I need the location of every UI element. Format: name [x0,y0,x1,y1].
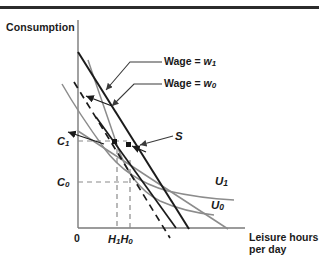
leader-line-wage-w0 [112,84,162,106]
substitution-arrow-lower [68,132,104,144]
x-axis-title: Leisure hours per day [249,232,318,256]
y-tick-c0-sub: 0 [65,180,69,189]
curve-u0-sub: 0 [219,202,224,212]
budget-line-wage-w0 [78,131,228,229]
x-tick-h0-sub: 0 [128,237,132,246]
figure-canvas: Consumption Leisure hours per day C1 C0 … [0,0,319,274]
x-axis-title-line1: Leisure hours [249,231,318,243]
annotation-wage-w0: Wage = w0 [164,78,216,91]
y-axis-title: Consumption [6,22,75,34]
y-tick-c1-sub: 1 [65,139,69,148]
annotation-point-s: S [175,130,183,143]
wage-w1-var: w [204,55,212,67]
y-tick-label-c0: C0 [57,176,69,190]
wage-w1-sub: 1 [212,59,216,68]
wage-w0-var: w [204,77,212,89]
y-tick-label-c1: C1 [57,135,69,149]
x-tick-labels: H1H0 [108,233,133,247]
marker-optimum-high-wage [126,142,131,147]
marker-optimum-low-wage [112,139,117,144]
curve-label-u1: U1 [215,175,228,189]
annotation-wage-w1: Wage = w1 [164,56,216,69]
curve-label-u0: U0 [211,199,224,213]
budget-line-secondary [96,117,176,228]
origin-label: 0 [74,233,80,245]
curve-u1-sub: 1 [223,178,228,188]
wage-w0-sub: 0 [212,81,216,90]
indifference-curve-u1 [62,84,234,200]
leader-line-wage-w1 [106,62,162,90]
wage-w1-prefix: Wage = [164,55,204,67]
y-tick-c1-base: C [57,135,65,147]
x-tick-h1-base: H [108,233,116,245]
leader-line-point-s [140,136,173,145]
x-axis-title-line2: per day [249,243,286,255]
y-tick-c0-base: C [57,176,65,188]
wage-w0-prefix: Wage = [164,77,204,89]
